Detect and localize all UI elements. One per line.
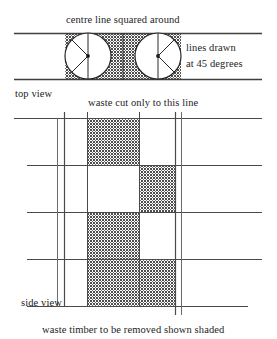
diagonal-right-lower bbox=[158, 56, 174, 72]
label-waste-timber-removed-shown-shaded: waste timber to be removed shown shaded bbox=[42, 324, 224, 336]
label-lines-drawn: lines drawn bbox=[186, 42, 236, 54]
side-view-shaded-block bbox=[87, 212, 139, 259]
centre-dot-right bbox=[156, 54, 160, 58]
diagonal-left-lower bbox=[72, 56, 88, 72]
diagonal-right-upper bbox=[158, 40, 174, 56]
top-view-circle-left bbox=[65, 33, 111, 79]
diagonal-left-upper bbox=[72, 40, 88, 56]
label-side-view: side view bbox=[21, 297, 62, 309]
label-at-45-degrees: at 45 degrees bbox=[186, 58, 243, 70]
side-view-shaded-block bbox=[139, 259, 175, 306]
centre-dot-left bbox=[86, 54, 90, 58]
label-centre-line-squared-around: centre line squared around bbox=[66, 14, 180, 26]
label-top-view: top view bbox=[15, 88, 52, 100]
side-view-group bbox=[14, 112, 262, 315]
side-view-shaded-block bbox=[87, 118, 139, 165]
top-view-waste-shading bbox=[14, 33, 262, 80]
side-view-shaded-block bbox=[139, 165, 175, 212]
label-waste-cut-only-to-this-line: waste cut only to this line bbox=[88, 97, 198, 109]
top-view-circle-right bbox=[135, 33, 181, 79]
diagram-page: centre line squared around lines drawn a… bbox=[0, 0, 277, 339]
side-view-shaded-block bbox=[87, 259, 139, 306]
top-view-group bbox=[14, 33, 262, 80]
